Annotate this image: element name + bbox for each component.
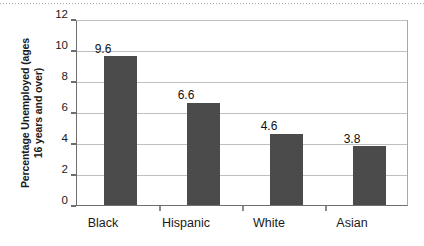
bar-black[interactable] [104, 56, 137, 205]
y-tick-label-4: 4 [8, 133, 68, 145]
y-tick-label-2: 2 [8, 164, 68, 176]
y-tick-label-0: 0 [8, 195, 68, 207]
bar-white[interactable] [270, 134, 303, 205]
x-tick-mark-3 [325, 206, 327, 211]
bar-asian[interactable] [353, 146, 386, 205]
y-tick-label-10: 10 [8, 40, 68, 52]
x-axis-label-asian: Asian [310, 216, 394, 231]
bar-value-asian: 3.8 [322, 133, 382, 145]
x-axis-label-black: Black [61, 216, 145, 231]
bar-chart-figure: Percentage Unemployed (ages 16 years and… [0, 0, 424, 246]
y-tick-label-8: 8 [8, 71, 68, 83]
bar-value-black: 9.6 [73, 43, 133, 55]
x-tick-mark-2 [242, 206, 244, 211]
y-tick-label-6: 6 [8, 102, 68, 114]
x-axis-label-hispanic: Hispanic [144, 216, 228, 231]
x-axis-label-white: White [227, 216, 311, 231]
bar-hispanic[interactable] [187, 103, 220, 205]
y-tick-label-12: 12 [8, 9, 68, 21]
bar-value-hispanic: 6.6 [156, 89, 216, 101]
scan-artifact-rule [0, 3, 424, 4]
x-tick-mark-1 [159, 206, 161, 211]
bar-value-white: 4.6 [239, 120, 299, 132]
